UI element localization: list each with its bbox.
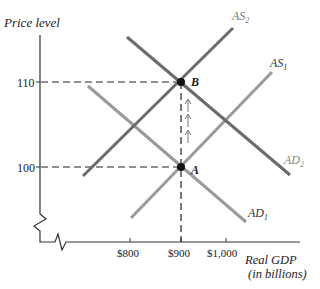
- curve-label-as2: AS2: [231, 9, 249, 25]
- x-axis-label-line2: (in billions): [248, 267, 307, 281]
- curve-ad2: [127, 37, 290, 175]
- point-a-label: A: [190, 163, 199, 177]
- arrow-up-icon: [185, 99, 191, 112]
- curve-as1: [131, 72, 272, 218]
- point-b-label: B: [190, 75, 199, 89]
- curve-label-as1: AS1: [269, 56, 287, 72]
- curve-label-ad2: AD2: [283, 153, 304, 169]
- y-axis-label: Price level: [3, 15, 60, 30]
- curve-label-ad1: AD1: [247, 206, 268, 222]
- svg-text:AD2: AD2: [283, 153, 304, 169]
- shift-arrows: [185, 99, 191, 143]
- ad-as-diagram: Price level 110 100 $800 $900 $1,000 Rea…: [0, 0, 320, 289]
- svg-text:AD1: AD1: [247, 206, 268, 222]
- y-tick-100: 100: [17, 161, 35, 175]
- point-a: [177, 163, 185, 171]
- curve-ad1: [88, 86, 246, 222]
- svg-text:AS2: AS2: [231, 9, 249, 25]
- x-axis-label-line1: Real GDP: [244, 253, 297, 267]
- x-tick-1000: $1,000: [207, 247, 238, 259]
- curves: [83, 28, 290, 222]
- svg-text:AS1: AS1: [269, 56, 287, 72]
- x-tick-900: $900: [168, 247, 191, 259]
- point-b: [177, 78, 185, 86]
- y-tick-110: 110: [17, 76, 35, 90]
- x-tick-800: $800: [117, 247, 140, 259]
- arrow-up-icon: [185, 114, 191, 127]
- arrow-up-icon: [185, 130, 191, 143]
